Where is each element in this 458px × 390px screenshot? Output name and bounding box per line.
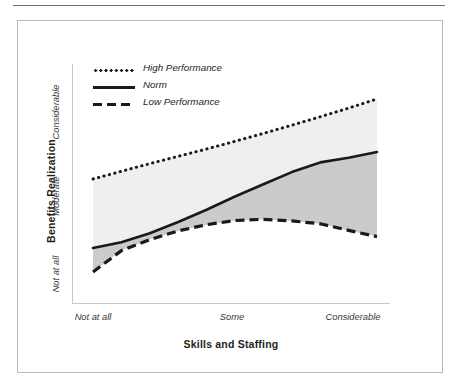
y-axis-line: [72, 64, 73, 304]
legend-label-high-performance: High Performance: [143, 62, 222, 73]
x-tick-label-not-at-all: Not at all: [48, 312, 138, 322]
legend-label-norm: Norm: [143, 79, 167, 90]
x-tick-label-some: Some: [192, 312, 272, 322]
legend-label-low-performance: Low Performance: [143, 96, 220, 107]
solid-line-swatch-icon: [93, 86, 135, 89]
y-tick-label-moderate: Moderate: [51, 158, 61, 234]
y-tick-label-not-at-all: Not at all: [51, 240, 61, 308]
x-axis-line: [72, 303, 390, 304]
dotted-line-swatch-icon: [93, 69, 135, 72]
dashed-line-swatch-icon: [93, 103, 135, 106]
chart-plot-area: Benefits Realization Skills and Staffing…: [0, 0, 458, 390]
y-tick-label-considerable: Considerable: [51, 67, 61, 157]
chart-curves-svg: [0, 0, 458, 390]
x-axis-title: Skills and Staffing: [72, 338, 390, 350]
x-tick-label-considerable: Considerable: [306, 312, 400, 322]
